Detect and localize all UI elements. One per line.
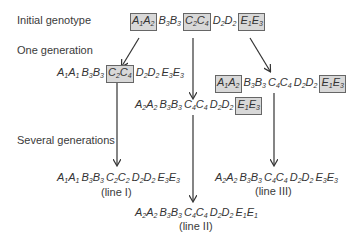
arrow-initial-to-left: [122, 38, 139, 66]
gene-c: C2C2: [106, 171, 130, 184]
gene-e-heterozygous-box: E1E3: [319, 75, 346, 93]
line3-label: (line III): [255, 185, 292, 197]
gene-c: C4C4: [184, 206, 208, 219]
arrows-layer: [0, 0, 359, 237]
gene-e: E3E3: [157, 171, 180, 184]
gene-b: B3B3: [159, 14, 182, 27]
gene-b: B3B3: [82, 171, 105, 184]
several-generations-label: Several generations: [17, 134, 115, 146]
initial-genotype-label: Initial genotype: [17, 14, 91, 26]
gene-a: A1A1: [57, 171, 80, 184]
gene-e: E1E1: [235, 206, 258, 219]
gene-e-heterozygous-box: E1E3: [235, 97, 262, 115]
gene-b: B3B3: [160, 206, 183, 219]
gene-e: E3E3: [315, 171, 338, 184]
gene-a: A1A1: [57, 66, 80, 79]
gene-a-heterozygous-box: A1A2: [130, 13, 157, 31]
gene-d: D2D2: [290, 171, 314, 184]
gene-a: A2A2: [215, 171, 238, 184]
gene-d: D2D2: [210, 98, 234, 111]
gene-d: D2D2: [132, 171, 156, 184]
genotype-line2: A2A2B3B3C4C4D2D2E1E1: [135, 206, 260, 219]
gene-b: B3B3: [240, 171, 263, 184]
gene-d: D2D2: [210, 206, 234, 219]
arrow-initial-to-right: [250, 38, 270, 71]
genotype-initial: A1A2B3B3C2C4D2D2E1E3: [130, 13, 267, 31]
gene-c: C4C4: [268, 76, 292, 89]
gene-d: D2D2: [294, 76, 318, 89]
gene-e: E3E3: [161, 66, 184, 79]
genotype-line3: A2A2B3B3C4C4D2D2E3E3: [215, 171, 340, 184]
line2-label: (line II): [179, 220, 213, 232]
genotype-gen1-right: A1A2B3B3C4C4D2D2E1E3: [215, 75, 348, 93]
gene-b: B3B3: [160, 98, 183, 111]
gene-c-heterozygous-box: C2C4: [106, 65, 134, 83]
gene-a: A2A2: [135, 206, 158, 219]
gene-a: A2A2: [135, 98, 158, 111]
gene-b: B3B3: [244, 76, 267, 89]
gene-c-heterozygous-box: C2C4: [183, 13, 211, 31]
gene-d: D2D2: [213, 14, 237, 27]
genotype-gen1-left: A1A1B3B3C2C4D2D2E3E3: [57, 65, 186, 83]
gene-e-heterozygous-box: E1E3: [238, 13, 265, 31]
gene-c: C4C4: [264, 171, 288, 184]
one-generation-label: One generation: [17, 44, 93, 56]
line1-label: (line I): [101, 186, 132, 198]
gene-a-heterozygous-box: A1A2: [215, 75, 242, 93]
gene-d: D2D2: [136, 66, 160, 79]
gene-b: B3B3: [82, 66, 105, 79]
genotype-line1: A1A1B3B3C2C2D2D2E3E3: [57, 171, 182, 184]
gene-c: C4C4: [184, 98, 208, 111]
genotype-gen1-middle: A2A2B3B3C4C4D2D2E1E3: [135, 97, 264, 115]
